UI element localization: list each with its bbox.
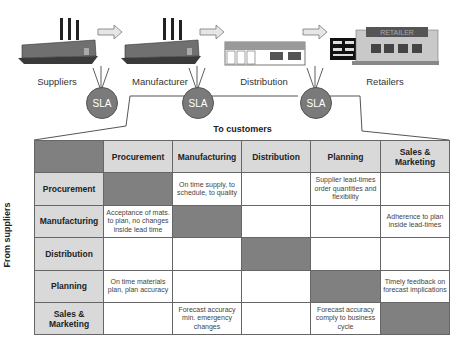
row-header: Distribution — [35, 238, 104, 270]
matrix-cell — [242, 302, 311, 334]
matrix-cell-diagonal — [242, 238, 311, 270]
matrix-row: Distribution — [35, 238, 450, 270]
matrix-corner — [35, 141, 104, 173]
matrix-cell: Timely feedback on forecast implications — [381, 270, 450, 302]
matrix-row: Manufacturing Acceptance of mats. to pla… — [35, 205, 450, 237]
matrix-cell-diagonal — [381, 302, 450, 334]
svg-text:RETAILER: RETAILER — [380, 29, 414, 36]
matrix-cell: Forecast accuracy min. emergency changes — [173, 302, 242, 334]
sla-badge-suppliers: SLA — [86, 87, 118, 119]
matrix-cell: Adherence to plan inside lead-times — [381, 205, 450, 237]
matrix-cell — [104, 302, 173, 334]
matrix-cell: Acceptance of mats. to plan, no changes … — [104, 205, 173, 237]
matrix-cell-diagonal — [311, 270, 381, 302]
matrix-cell — [104, 238, 173, 270]
matrix-cell — [242, 173, 311, 205]
factory-icon — [121, 18, 201, 64]
axis-label-to-customers: To customers — [0, 124, 465, 134]
stage-label-manufacturer: Manufacturer — [115, 76, 205, 87]
column-header: Sales & Marketing — [381, 141, 450, 173]
sla-badge-manufacturer: SLA — [182, 87, 214, 119]
row-header: Sales & Marketing — [35, 302, 104, 334]
matrix-cell: Supplier lead-times order quantities and… — [311, 173, 381, 205]
column-header: Procurement — [104, 141, 173, 173]
matrix-cell: Forecast accuracy comply to business cyc… — [311, 302, 381, 334]
sla-matrix: Procurement Manufacturing Distribution P… — [34, 140, 450, 335]
warehouse-icon — [225, 42, 305, 65]
matrix-cell — [311, 205, 381, 237]
row-header: Procurement — [35, 173, 104, 205]
row-header: Manufacturing — [35, 205, 104, 237]
matrix-cell — [381, 173, 450, 205]
matrix-cell — [173, 270, 242, 302]
matrix-cell: On time supply, to schedule, to quality — [173, 173, 242, 205]
matrix-row: Sales & Marketing Forecast accuracy min.… — [35, 302, 450, 334]
row-header: Planning — [35, 270, 104, 302]
stage-label-suppliers: Suppliers — [12, 76, 102, 87]
column-header: Manufacturing — [173, 141, 242, 173]
flow-arrow-icon — [98, 25, 327, 39]
matrix-cell: On time materials plan, plan accuracy — [104, 270, 173, 302]
column-header: Planning — [311, 141, 381, 173]
matrix-row: Procurement On time supply, to schedule,… — [35, 173, 450, 205]
matrix-cell-diagonal — [104, 173, 173, 205]
matrix-cell — [311, 238, 381, 270]
matrix-cell-diagonal — [173, 205, 242, 237]
matrix-cell — [173, 238, 242, 270]
stage-label-retailers: Retailers — [340, 76, 430, 87]
factory-icon — [18, 18, 98, 64]
axis-label-from-suppliers: From suppliers — [2, 200, 12, 270]
matrix-row: Planning On time materials plan, plan ac… — [35, 270, 450, 302]
matrix-cell — [242, 205, 311, 237]
stage-label-distribution: Distribution — [219, 76, 309, 87]
matrix-cell — [381, 238, 450, 270]
column-header: Distribution — [242, 141, 311, 173]
sla-badge-distribution: SLA — [300, 87, 332, 119]
matrix-cell — [242, 270, 311, 302]
store-icon: RETAILER — [330, 27, 439, 65]
matrix-header-row: Procurement Manufacturing Distribution P… — [35, 141, 450, 173]
